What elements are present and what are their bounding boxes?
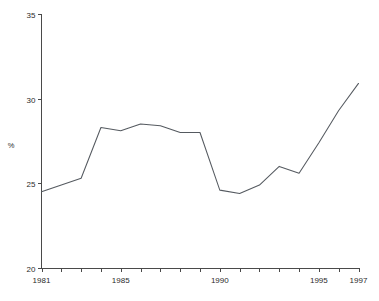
- x-tick-label: 1997: [350, 276, 368, 285]
- y-tick-label: 30: [27, 96, 36, 105]
- x-tick-label: 1990: [211, 276, 229, 285]
- chart-plot-area: 20253035 19811985199019951997 %: [0, 0, 379, 301]
- x-tick-label: 1981: [33, 276, 51, 285]
- x-axis-tick-labels: 19811985199019951997: [33, 276, 368, 285]
- line-chart: 20253035 19811985199019951997 %: [0, 0, 379, 301]
- y-axis-title: %: [8, 141, 15, 150]
- data-series-line: [42, 83, 359, 193]
- y-tick-label: 35: [27, 11, 36, 20]
- y-axis-tick-labels: 20253035: [27, 11, 36, 274]
- y-tick-label: 25: [27, 180, 36, 189]
- x-tick-label: 1995: [310, 276, 328, 285]
- y-axis-ticks: [38, 15, 42, 269]
- y-tick-label: 20: [27, 265, 36, 274]
- x-tick-label: 1985: [112, 276, 130, 285]
